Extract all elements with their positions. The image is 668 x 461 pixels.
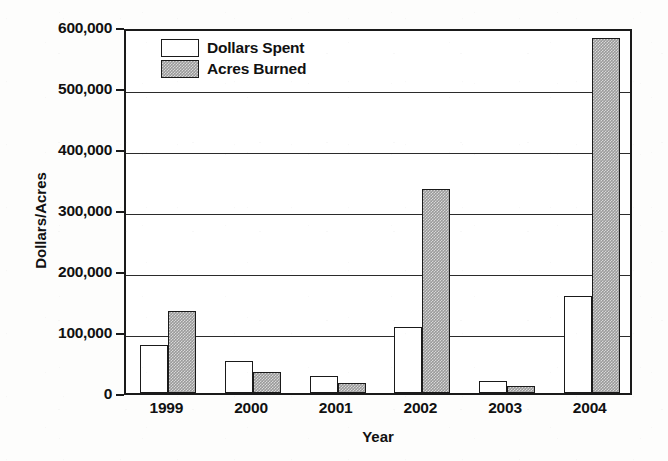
bar-2001-series-1 — [338, 383, 366, 393]
bar-1999-series-1 — [168, 311, 196, 393]
y-axis-tick-mark — [116, 150, 124, 152]
bar-2003-series-0 — [479, 381, 507, 393]
bar-2004-series-0 — [564, 296, 592, 393]
y-axis-tick-mark — [116, 28, 124, 30]
bar-2002-series-0 — [394, 327, 422, 393]
chart-legend: Dollars SpentAcres Burned — [161, 39, 306, 78]
legend-label: Acres Burned — [207, 60, 306, 78]
x-axis-tick-label: 2000 — [206, 399, 296, 417]
x-axis-tick-label: 2003 — [460, 399, 550, 417]
bar-2003-series-1 — [507, 386, 535, 393]
y-axis-tick-label: 400,000 — [12, 141, 112, 159]
y-axis-tick-label: 200,000 — [12, 263, 112, 281]
legend-entry: Dollars Spent — [161, 39, 306, 57]
y-axis-tick-labels: 0100,000200,000300,000400,000500,000600,… — [0, 0, 112, 461]
bar-1999-series-0 — [140, 345, 168, 393]
bar-2002-series-1 — [422, 189, 450, 393]
legend-label: Dollars Spent — [207, 39, 304, 57]
x-axis-tick-label: 2002 — [375, 399, 465, 417]
x-axis-title: Year — [124, 428, 632, 445]
y-axis-tick-mark — [116, 89, 124, 91]
bar-2000-series-0 — [225, 361, 253, 393]
bar-series-layer — [126, 31, 630, 393]
x-axis-tick-label: 2001 — [291, 399, 381, 417]
legend-entry: Acres Burned — [161, 60, 306, 78]
bar-2001-series-0 — [310, 376, 338, 393]
y-axis-tick-label: 500,000 — [12, 80, 112, 98]
bar-2004-series-1 — [592, 38, 620, 393]
x-axis-tick-label: 1999 — [121, 399, 211, 417]
y-axis-tick-mark — [116, 333, 124, 335]
chart-page: 0100,000200,000300,000400,000500,000600,… — [0, 0, 668, 461]
y-axis-title: Dollars/Acres — [32, 141, 49, 301]
y-axis-tick-label: 100,000 — [12, 324, 112, 342]
bar-2000-series-1 — [253, 372, 281, 393]
legend-swatch-white-square — [161, 39, 199, 57]
y-axis-tick-label: 600,000 — [12, 19, 112, 37]
y-axis-tick-mark — [116, 211, 124, 213]
y-axis-tick-mark — [116, 272, 124, 274]
x-axis-tick-label: 2004 — [545, 399, 635, 417]
y-axis-tick-label: 300,000 — [12, 202, 112, 220]
legend-swatch-gray-hatched-square — [161, 60, 199, 78]
y-axis-tick-label: 0 — [12, 385, 112, 403]
plot-area: Dollars SpentAcres Burned — [124, 29, 632, 395]
y-axis-tick-mark — [116, 394, 124, 396]
